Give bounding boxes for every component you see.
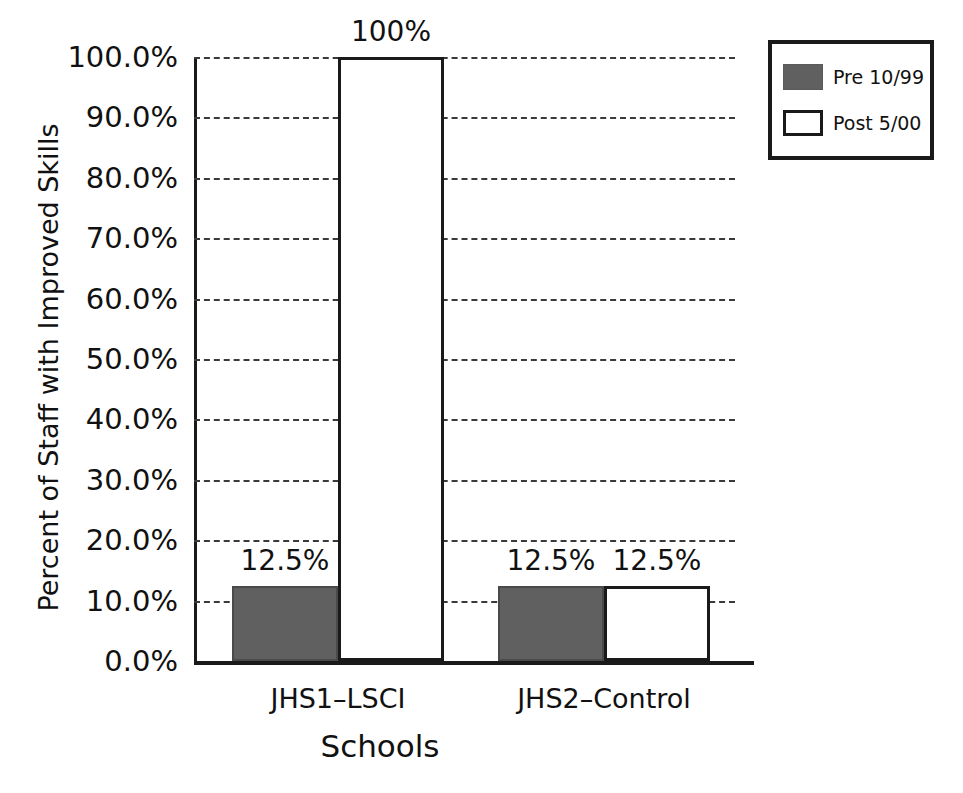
legend-item-pre[interactable]: Pre 10/99 [783,60,924,94]
gridline [194,117,735,119]
data-label: 12.5% [507,544,596,577]
y-tick-label: 70.0% [86,221,178,255]
x-axis-title: Schools [0,728,760,764]
y-tick-label: 20.0% [86,523,178,557]
gridline [194,419,735,421]
y-tick-label: 10.0% [86,584,178,618]
x-axis-line [194,661,754,665]
gridline [194,57,735,59]
legend-item-post[interactable]: Post 5/00 [783,106,921,140]
gridline [194,178,735,180]
gridline [194,480,735,482]
gridline [194,359,735,361]
data-label: 100% [351,15,431,48]
legend-label-pre: Pre 10/99 [833,66,924,88]
legend-swatch-pre-icon [783,64,823,90]
bar-pre-2[interactable] [498,586,604,662]
x-category-label: JHS1–LSCI [270,683,405,714]
y-tick-label: 80.0% [86,161,178,195]
legend-swatch-post-icon [783,110,823,136]
y-axis-tick-labels: 0.0%10.0%20.0%30.0%40.0%50.0%60.0%70.0%8… [36,57,186,661]
y-tick-label: 90.0% [86,100,178,134]
legend-box: Pre 10/99 Post 5/00 [768,40,934,160]
legend-label-post: Post 5/00 [833,112,921,134]
y-tick-label: 0.0% [104,644,178,678]
bar-pre-1[interactable] [232,586,338,662]
gridline [194,238,735,240]
bar-post-2[interactable] [604,586,710,662]
gridline [194,299,735,301]
gridline [194,540,735,542]
data-label: 12.5% [241,544,330,577]
y-tick-label: 40.0% [86,402,178,436]
bar-chart-figure: Percent of Staff with Improved Skills 0.… [0,0,963,793]
y-tick-label: 30.0% [86,463,178,497]
data-label: 12.5% [613,544,702,577]
y-tick-label: 60.0% [86,282,178,316]
x-category-label: JHS2–Control [517,683,691,714]
bar-post-1[interactable] [338,57,444,661]
y-tick-label: 100.0% [67,40,178,74]
y-tick-label: 50.0% [86,342,178,376]
plot-area: 12.5%100%JHS1–LSCI12.5%12.5%JHS2–Control [194,57,735,661]
